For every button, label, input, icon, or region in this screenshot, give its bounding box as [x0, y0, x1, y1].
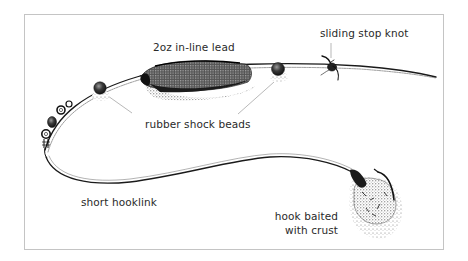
lead-weight	[141, 61, 252, 93]
hook-with-bait	[350, 169, 403, 238]
label-stop-knot: sliding stop knot	[320, 27, 409, 40]
hooklink	[46, 154, 352, 183]
shock-bead-right	[270, 63, 288, 83]
label-shock-beads: rubber shock beads	[145, 118, 251, 131]
label-lead: 2oz in-line lead	[153, 41, 235, 54]
beads-leader-right	[238, 82, 274, 114]
label-hooklink: short hooklink	[81, 196, 157, 209]
swivel	[42, 101, 72, 158]
label-bait-line2: with crust	[285, 224, 338, 237]
beads-leader-left	[108, 96, 132, 113]
label-bait-line1: hook baited	[275, 210, 338, 223]
